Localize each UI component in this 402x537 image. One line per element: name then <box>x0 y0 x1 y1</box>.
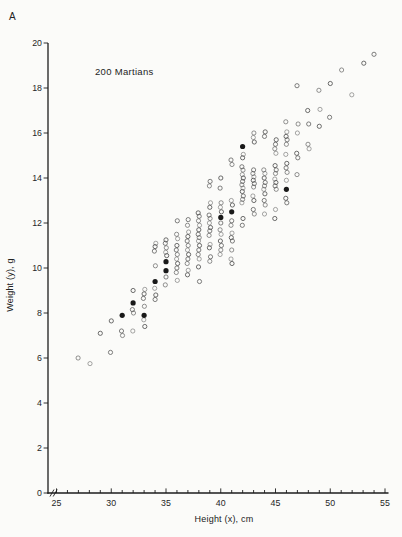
svg-text:45: 45 <box>271 498 281 508</box>
y-axis-ticks: 02468101214161820 <box>32 38 48 498</box>
svg-text:50: 50 <box>325 498 335 508</box>
scatter-plot: 2530354045505502468101214161820 <box>0 0 402 537</box>
svg-text:30: 30 <box>106 498 116 508</box>
svg-text:20: 20 <box>32 38 42 48</box>
svg-text:4: 4 <box>37 398 42 408</box>
scanned-figure-page: A 200 Martians Weight (y), g Height (x),… <box>0 0 402 537</box>
svg-text:14: 14 <box>32 173 42 183</box>
axes <box>47 43 388 497</box>
svg-text:8: 8 <box>37 308 42 318</box>
svg-text:25: 25 <box>52 498 62 508</box>
svg-text:40: 40 <box>216 498 226 508</box>
svg-text:10: 10 <box>32 263 42 273</box>
x-axis-ticks: 25303540455055 <box>52 488 390 508</box>
svg-text:12: 12 <box>32 218 42 228</box>
svg-text:55: 55 <box>380 498 390 508</box>
svg-text:35: 35 <box>161 498 171 508</box>
svg-text:16: 16 <box>32 128 42 138</box>
svg-text:6: 6 <box>37 353 42 363</box>
svg-text:2: 2 <box>37 443 42 453</box>
svg-text:0: 0 <box>37 488 42 498</box>
martian-open-points <box>76 52 376 366</box>
svg-text:18: 18 <box>32 83 42 93</box>
